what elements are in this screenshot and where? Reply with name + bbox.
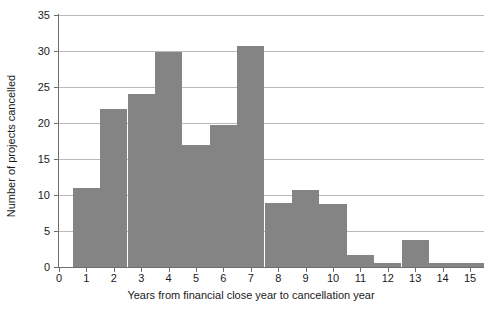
x-tick-mark bbox=[169, 268, 170, 272]
y-tick-label: 30 bbox=[38, 45, 50, 57]
x-tick-label: 14 bbox=[436, 272, 448, 284]
x-tick-label: 12 bbox=[382, 272, 394, 284]
x-tick-mark bbox=[59, 268, 60, 272]
x-tick-label: 2 bbox=[111, 272, 117, 284]
gridline bbox=[59, 87, 484, 88]
x-tick-label: 10 bbox=[327, 272, 339, 284]
x-axis-line bbox=[58, 267, 484, 268]
x-tick-mark bbox=[251, 268, 252, 272]
histogram-bar bbox=[265, 203, 292, 267]
x-tick-mark bbox=[415, 268, 416, 272]
histogram-bar bbox=[73, 188, 100, 267]
histogram-bar bbox=[182, 145, 209, 267]
x-tick-label: 3 bbox=[138, 272, 144, 284]
histogram-bar bbox=[319, 204, 346, 267]
x-tick-mark bbox=[223, 268, 224, 272]
histogram-chart: 05101520253035 0123456789101112131415 Ye… bbox=[0, 0, 502, 316]
histogram-bar bbox=[347, 255, 374, 267]
x-tick-mark bbox=[360, 268, 361, 272]
x-tick-mark bbox=[114, 268, 115, 272]
histogram-bar bbox=[210, 125, 237, 267]
y-tick-label: 10 bbox=[38, 189, 50, 201]
x-tick-mark bbox=[141, 268, 142, 272]
plot-area bbox=[59, 15, 484, 267]
x-tick-label: 4 bbox=[166, 272, 172, 284]
histogram-bar bbox=[237, 46, 264, 267]
y-tick-label: 0 bbox=[44, 261, 50, 273]
x-tick-label: 5 bbox=[193, 272, 199, 284]
histogram-bar bbox=[292, 190, 319, 267]
x-tick-mark bbox=[278, 268, 279, 272]
x-tick-label: 13 bbox=[409, 272, 421, 284]
y-tick-label: 35 bbox=[38, 9, 50, 21]
x-tick-mark bbox=[196, 268, 197, 272]
y-axis-line bbox=[58, 14, 59, 268]
x-tick-mark bbox=[443, 268, 444, 272]
x-tick-label: 1 bbox=[83, 272, 89, 284]
x-tick-mark bbox=[470, 268, 471, 272]
x-tick-label: 15 bbox=[464, 272, 476, 284]
histogram-bar bbox=[100, 109, 127, 267]
x-tick-label: 9 bbox=[303, 272, 309, 284]
x-axis-title: Years from financial close year to cance… bbox=[0, 289, 502, 301]
x-tick-mark bbox=[333, 268, 334, 272]
y-tick-label: 15 bbox=[38, 153, 50, 165]
gridline bbox=[59, 51, 484, 52]
histogram-bar bbox=[128, 94, 155, 267]
histogram-bar bbox=[402, 240, 429, 267]
x-tick-label: 8 bbox=[275, 272, 281, 284]
x-tick-label: 6 bbox=[220, 272, 226, 284]
histogram-bar bbox=[155, 52, 182, 267]
x-tick-label: 0 bbox=[56, 272, 62, 284]
x-tick-mark bbox=[306, 268, 307, 272]
gridline bbox=[59, 15, 484, 16]
x-tick-label: 11 bbox=[355, 272, 366, 284]
y-tick-label: 20 bbox=[38, 117, 50, 129]
x-tick-mark bbox=[388, 268, 389, 272]
x-tick-mark bbox=[86, 268, 87, 272]
x-tick-label: 7 bbox=[248, 272, 254, 284]
y-tick-label: 5 bbox=[44, 225, 50, 237]
y-tick-label: 25 bbox=[38, 81, 50, 93]
y-axis-title: Number of projects cancelled bbox=[5, 56, 17, 236]
